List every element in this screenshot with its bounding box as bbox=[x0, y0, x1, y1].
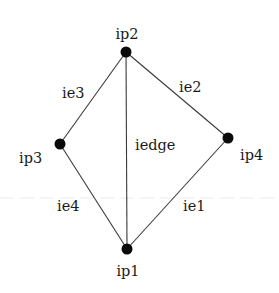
edge-ie1 bbox=[127, 138, 228, 249]
node-label-ip3: ip3 bbox=[19, 150, 42, 166]
graph-diagram: ip2 ip3 ip4 ip1 ie3 ie2 iedge ie4 ie1 bbox=[0, 0, 279, 293]
edge-label-ie2: ie2 bbox=[179, 79, 201, 95]
edge-iedge bbox=[126, 52, 127, 249]
node-label-ip1: ip1 bbox=[116, 263, 139, 279]
node-ip4 bbox=[223, 133, 234, 144]
node-label-ip2: ip2 bbox=[115, 26, 138, 42]
node-ip1 bbox=[122, 244, 133, 255]
edge-ie4 bbox=[60, 144, 127, 249]
node-label-ip4: ip4 bbox=[240, 147, 263, 163]
node-ip2 bbox=[121, 47, 132, 58]
edge-label-iedge: iedge bbox=[135, 137, 175, 153]
edge-label-ie1: ie1 bbox=[183, 198, 205, 214]
edge-label-ie4: ie4 bbox=[57, 198, 79, 214]
node-ip3 bbox=[55, 139, 66, 150]
edge-label-ie3: ie3 bbox=[62, 85, 84, 101]
edge-ie2 bbox=[126, 52, 228, 138]
